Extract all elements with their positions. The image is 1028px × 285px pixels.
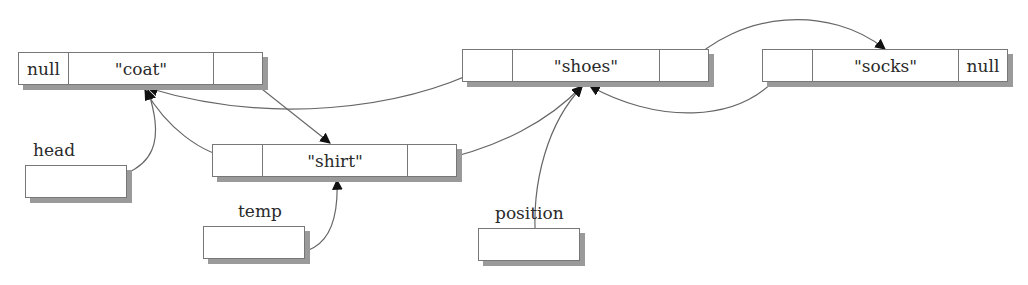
node-socks: "socks" null <box>762 49 1008 82</box>
next-pointer-cell <box>659 50 708 81</box>
next-pointer-cell <box>213 53 262 84</box>
variable-label-position: position <box>495 203 564 223</box>
node-value: "shoes" <box>512 50 659 81</box>
node-value: "coat" <box>68 53 213 84</box>
variable-box-temp <box>203 226 305 259</box>
node-value: "socks" <box>812 50 958 81</box>
prev-pointer-cell <box>763 50 812 81</box>
node-value: "shirt" <box>262 145 407 176</box>
node-shirt: "shirt" <box>212 144 457 177</box>
variable-label-head: head <box>33 140 75 160</box>
prev-pointer-cell: null <box>19 53 68 84</box>
next-pointer-cell: null <box>958 50 1007 81</box>
variable-box-head <box>25 165 127 198</box>
prev-pointer-cell <box>463 50 512 81</box>
variable-box-position <box>478 228 580 261</box>
next-pointer-cell <box>407 145 456 176</box>
node-shoes: "shoes" <box>462 49 709 82</box>
node-coat: null "coat" <box>18 52 263 85</box>
variable-label-temp: temp <box>238 201 282 221</box>
prev-pointer-cell <box>213 145 262 176</box>
